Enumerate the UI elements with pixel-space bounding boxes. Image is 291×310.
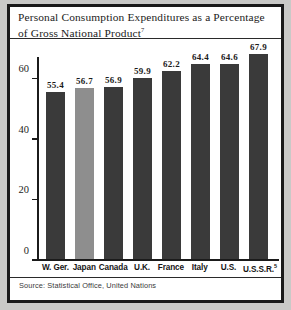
bar-column: 67.9 [244, 43, 273, 259]
x-axis-label: Canada [99, 263, 128, 274]
bar: 55.4 [46, 92, 66, 260]
y-axis-tick [32, 259, 38, 261]
bar: 56.7 [75, 88, 95, 260]
x-axis-label-footnote-marker: 5 [274, 263, 277, 269]
source-divider [10, 277, 281, 278]
chart-title: Personal Consumption Expenditures as a P… [18, 11, 275, 39]
bar-column: 56.7 [70, 43, 99, 259]
x-axis-label: U.K. [128, 263, 157, 274]
bar-value-label: 56.9 [105, 75, 122, 85]
y-axis-tick [32, 138, 38, 140]
bar-column: 64.6 [215, 43, 244, 259]
source-note: Source: Statistical Office, United Natio… [19, 281, 156, 290]
bar: 59.9 [133, 78, 153, 259]
bar-series: 55.456.756.959.962.264.464.667.9 [41, 43, 273, 259]
x-axis-label: U.S. [214, 263, 243, 274]
x-axis-label: France [156, 263, 185, 274]
bar-column: 55.4 [41, 43, 70, 259]
x-axis-label: Italy [185, 263, 214, 274]
bar-value-label: 59.9 [134, 66, 151, 76]
y-axis-tick-label: 40 [19, 123, 30, 134]
bar: 62.2 [162, 71, 182, 259]
bar: 56.9 [104, 87, 124, 259]
bar-value-label: 64.4 [192, 52, 209, 62]
bar-value-label: 64.6 [221, 52, 238, 62]
bar-column: 64.4 [186, 43, 215, 259]
y-axis-tick [32, 78, 38, 80]
y-axis-line [37, 57, 39, 261]
bar: 67.9 [249, 54, 269, 260]
y-axis-tick-label: 60 [19, 63, 30, 74]
chart-title-footnote-marker: 7 [141, 26, 144, 33]
bar-value-label: 55.4 [47, 80, 64, 90]
chart-inner: Personal Consumption Expenditures as a P… [10, 7, 281, 300]
x-axis-label: U.S.S.R.5 [243, 263, 277, 274]
x-axis-label: W. Ger. [41, 263, 70, 274]
bar-value-label: 56.7 [76, 76, 93, 86]
bar: 64.4 [191, 64, 211, 259]
y-axis-tick-label: 20 [19, 184, 30, 195]
x-axis-labels: W. Ger.JapanCanadaU.K.FranceItalyU.S.U.S… [41, 263, 277, 274]
bar-value-label: 62.2 [163, 59, 180, 69]
y-axis-tick-label: 0 [24, 245, 29, 256]
bar-column: 56.9 [99, 43, 128, 259]
bar-column: 59.9 [128, 43, 157, 259]
bar-column: 62.2 [157, 43, 186, 259]
bar: 64.6 [220, 64, 240, 260]
title-divider [10, 38, 281, 39]
y-axis-tick [32, 199, 38, 201]
x-axis-baseline [37, 259, 279, 261]
plot-area: 0204060 55.456.756.959.962.264.464.667.9 [37, 43, 273, 261]
chart-figure: Personal Consumption Expenditures as a P… [7, 4, 284, 303]
bar-value-label: 67.9 [250, 42, 267, 52]
x-axis-label: Japan [70, 263, 99, 274]
